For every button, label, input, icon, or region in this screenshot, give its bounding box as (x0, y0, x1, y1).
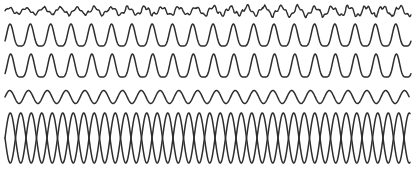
waveform-trace-trace-3-narrow-peak-train (5, 54, 411, 77)
waveform-trace-trace-1-low-amplitude-irregular (5, 5, 411, 18)
waveform-trace-trace-2-narrow-peak-train (5, 24, 411, 46)
waveform-trace-trace-4-medium-sine (5, 91, 409, 104)
waveform-figure (0, 0, 416, 169)
waveform-trace-canvas (0, 0, 416, 169)
